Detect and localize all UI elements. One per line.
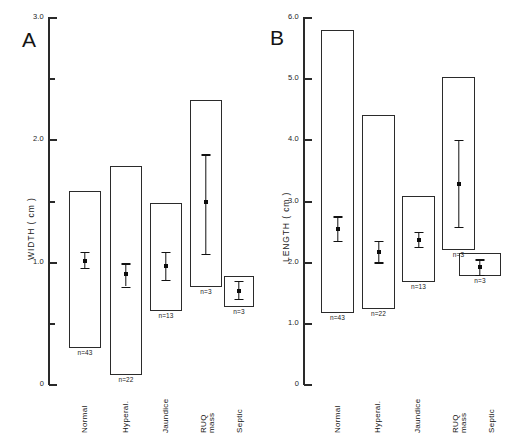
panel-b-n-jaundice: n=13 [411,283,426,290]
panel-a-errcap-bottom-ruq-mass [202,254,211,255]
panel-a-errcap-top-normal [81,252,90,253]
panel-b-tick-label-6: 6.0 [277,12,299,21]
panel-a-box-normal [69,191,101,348]
panel-a-tick-label-0: 0 [22,379,44,388]
panel-b-tick-label-0: 0 [277,379,299,388]
panel-a-errcap-bottom-septic [235,299,244,300]
panel-a-letter: A [22,28,37,52]
panel-a-tick-1 [49,262,57,264]
panel-a-mean-septic [237,289,241,293]
figure-panel-container: A 3.0 2.0 1.0 0 WIDTH ( cm ) n=43 n=22 [0,0,506,441]
panel-a-cat-jaundice: Jaundice [162,399,171,433]
panel-a-tick-2p5 [49,78,55,80]
panel-b-tick-4 [304,139,312,141]
panel-b-errcap-bottom-jaundice [414,247,423,248]
panel-a-errcap-top-hyperal [122,263,131,264]
panel-b-errcap-bottom-septic [476,275,485,276]
panel-b-errcap-top-jaundice [414,232,423,233]
panel-b-errcap-bottom-normal [333,241,342,242]
panel-a-mean-hyperal [124,272,128,276]
panel-b-mean-septic [478,265,482,269]
panel-b-tick-label-1: 1.0 [277,318,299,327]
panel-a-errcap-bottom-hyperal [122,287,131,288]
panel-a-errcap-bottom-normal [81,268,90,269]
panel-b-mean-hyperal [377,250,381,254]
panel-a-cat-hyperal: Hyperal. [122,401,131,433]
panel-b-box-normal [321,30,354,313]
panel-a-tick-3 [49,17,57,19]
panel-b-errcap-top-septic [476,259,485,260]
panel-a-n-jaundice: n=13 [158,312,173,319]
panel-b-errcap-top-ruq-mass [454,140,463,141]
panel-a-n-normal: n=43 [77,349,92,356]
panel-a-errcap-bottom-jaundice [162,280,171,281]
panel-a-mean-normal [83,259,87,263]
panel-b-cat-ruq-mass: RUQmass [452,413,468,433]
panel-b-tick-3 [304,201,312,203]
panel-b-box-hyperal [362,115,395,309]
panel-b-n-normal: n=43 [330,314,345,321]
panel-a-errcap-top-septic [235,281,244,282]
panel-b-tick-1 [304,323,312,325]
panel-a-tick-label-2: 2.0 [22,134,44,143]
panel-a-cat-septic: Septic [236,409,245,433]
panel-b-cat-ruq-mass-text: RUQmass [452,413,468,433]
panel-b-cat-septic: Septic [488,409,497,433]
panel-a-cat-normal: Normal [81,405,90,433]
panel-b-errcap-bottom-ruq-mass [454,227,463,228]
panel-b-cat-hyperal: Hyperal. [374,401,383,433]
panel-b-n-septic: n=3 [474,277,485,284]
panel-b-tick-6 [304,17,312,19]
panel-b-tick-5 [304,78,312,80]
panel-b-mean-jaundice [417,238,421,242]
panel-a-tick-label-3: 3.0 [22,12,44,21]
panel-a-n-septic: n=3 [233,308,244,315]
panel-b-errcap-bottom-hyperal [374,262,383,263]
panel-b-mean-normal [336,227,340,231]
panel-a-errcap-top-jaundice [162,252,171,253]
panel-b-errcap-top-normal [333,216,342,217]
panel-a-cat-ruq-mass-text: RUQmass [200,413,216,433]
panel-a-tick-2 [49,139,57,141]
panel-a-tick-0p5 [49,323,55,325]
panel-a-axis-title: WIDTH ( cm ) [26,197,36,260]
panel-a: A 3.0 2.0 1.0 0 WIDTH ( cm ) n=43 n=22 [0,0,256,441]
panel-b: B 6.0 5.0 4.0 3.0 2.0 1.0 0 LENGTH ( cm … [256,0,506,441]
panel-b-axis-title: LENGTH ( cm ) [281,192,291,262]
panel-a-mean-ruq-mass [204,200,208,204]
panel-a-errcap-top-ruq-mass [202,154,211,155]
panel-b-cat-jaundice: Jaundice [414,399,423,433]
panel-a-cat-ruq-mass: RUQmass [200,413,216,433]
panel-b-n-hyperal: n=22 [371,310,386,317]
panel-b-cat-normal: Normal [334,405,343,433]
panel-b-tick-label-4: 4.0 [277,134,299,143]
panel-b-tick-2 [304,262,312,264]
panel-a-n-ruq-mass: n=3 [200,288,211,295]
panel-b-tick-label-5: 5.0 [277,73,299,82]
panel-b-tick-0 [304,384,312,386]
panel-a-mean-jaundice [164,264,168,268]
panel-a-tick-0 [49,384,57,386]
panel-a-tick-1p5 [49,201,55,203]
panel-a-n-hyperal: n=22 [118,376,133,383]
panel-b-mean-ruq-mass [457,182,461,186]
panel-b-errcap-top-hyperal [374,241,383,242]
panel-b-letter: B [270,26,285,50]
